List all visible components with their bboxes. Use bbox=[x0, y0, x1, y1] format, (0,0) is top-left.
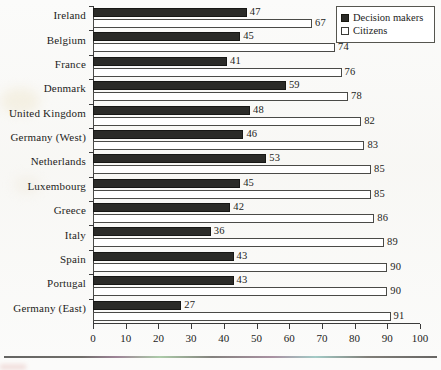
bar-value-label: 83 bbox=[367, 140, 378, 150]
bar-decision-makers bbox=[93, 203, 230, 212]
bar-decision-makers bbox=[93, 130, 243, 139]
bar-value-label: 48 bbox=[253, 105, 264, 115]
x-axis-tick bbox=[420, 324, 421, 329]
x-axis-tick bbox=[355, 324, 356, 329]
category-label: Spain bbox=[60, 254, 86, 265]
bar-group: Denmark5978 bbox=[93, 79, 420, 103]
bar-citizens bbox=[93, 190, 371, 199]
bar-value-label: 90 bbox=[390, 286, 401, 296]
category-label: Luxembourg bbox=[27, 181, 86, 192]
bar-decision-makers bbox=[93, 81, 286, 90]
legend-label: Decision makers bbox=[353, 12, 423, 23]
bar-decision-makers bbox=[93, 276, 234, 285]
x-axis-tick-label: 0 bbox=[90, 333, 96, 344]
scan-edge-smudge bbox=[0, 364, 26, 370]
filled-square-icon bbox=[341, 14, 349, 22]
page-edge-rule bbox=[4, 356, 437, 358]
category-label: Netherlands bbox=[31, 156, 86, 167]
x-axis-tick bbox=[191, 324, 192, 329]
bar-value-label: 53 bbox=[269, 153, 280, 163]
bar-value-label: 76 bbox=[345, 67, 356, 77]
y-axis-tick bbox=[89, 274, 94, 275]
category-label: Germany (West) bbox=[10, 132, 86, 143]
x-axis-tick bbox=[387, 324, 388, 329]
bar-citizens bbox=[93, 43, 335, 52]
bar-decision-makers bbox=[93, 8, 247, 17]
category-label: United Kingdom bbox=[9, 108, 86, 119]
x-axis-tick bbox=[93, 324, 94, 329]
x-axis-tick-label: 20 bbox=[153, 333, 164, 344]
category-label: France bbox=[55, 59, 86, 70]
y-axis-tick bbox=[89, 104, 94, 105]
y-axis-tick bbox=[89, 250, 94, 251]
bar-group: Netherlands5385 bbox=[93, 152, 420, 176]
bar-value-label: 82 bbox=[364, 116, 375, 126]
x-axis-tick-label: 90 bbox=[382, 333, 393, 344]
x-axis-tick-label: 70 bbox=[316, 333, 327, 344]
bar-group: Germany (West)4683 bbox=[93, 128, 420, 152]
bar-value-label: 86 bbox=[377, 213, 388, 223]
bar-group: Italy3689 bbox=[93, 225, 420, 249]
bar-decision-makers bbox=[93, 154, 266, 163]
bar-group: Luxembourg4585 bbox=[93, 177, 420, 201]
category-label: Ireland bbox=[53, 10, 86, 21]
bar-value-label: 43 bbox=[237, 275, 248, 285]
bar-citizens bbox=[93, 263, 387, 272]
bar-group: France4176 bbox=[93, 55, 420, 79]
category-label: Greece bbox=[54, 205, 86, 216]
category-label: Portugal bbox=[47, 278, 86, 289]
legend-label: Citizens bbox=[353, 25, 387, 36]
category-label: Italy bbox=[65, 230, 86, 241]
bar-citizens bbox=[93, 68, 342, 77]
plot-area: Ireland4767Belgium4574France4176Denmark5… bbox=[93, 6, 420, 323]
bar-decision-makers bbox=[93, 106, 250, 115]
y-axis-tick bbox=[89, 152, 94, 153]
x-axis-tick-label: 80 bbox=[349, 333, 360, 344]
bar-decision-makers bbox=[93, 227, 211, 236]
bar-value-label: 42 bbox=[233, 202, 244, 212]
bar-value-label: 41 bbox=[230, 56, 241, 66]
bar-value-label: 85 bbox=[374, 189, 385, 199]
chart-canvas: Ireland4767Belgium4574France4176Denmark5… bbox=[0, 0, 441, 370]
x-axis-tick-label: 10 bbox=[120, 333, 131, 344]
x-axis-tick bbox=[322, 324, 323, 329]
bar-group: Portugal4390 bbox=[93, 274, 420, 298]
empty-square-icon bbox=[341, 27, 349, 35]
y-axis-tick bbox=[89, 299, 94, 300]
bar-value-label: 59 bbox=[289, 80, 300, 90]
bar-decision-makers bbox=[93, 252, 234, 261]
x-axis-tick bbox=[224, 324, 225, 329]
category-label: Belgium bbox=[47, 35, 86, 46]
bar-value-label: 43 bbox=[237, 251, 248, 261]
x-axis-tick-label: 30 bbox=[186, 333, 197, 344]
bar-citizens bbox=[93, 19, 312, 28]
x-axis: 0102030405060708090100 bbox=[93, 323, 420, 324]
bar-value-label: 91 bbox=[394, 311, 405, 321]
y-axis-tick bbox=[89, 79, 94, 80]
bar-citizens bbox=[93, 117, 361, 126]
x-axis-tick-label: 60 bbox=[284, 333, 295, 344]
bar-group: United Kingdom4882 bbox=[93, 104, 420, 128]
bar-value-label: 27 bbox=[184, 300, 195, 310]
bar-citizens bbox=[93, 214, 374, 223]
x-axis-tick-label: 100 bbox=[412, 333, 429, 344]
bar-group: Spain4390 bbox=[93, 250, 420, 274]
bar-value-label: 46 bbox=[246, 129, 257, 139]
category-label: Germany (East) bbox=[13, 303, 86, 314]
x-axis-tick bbox=[126, 324, 127, 329]
y-axis-tick bbox=[89, 55, 94, 56]
bar-value-label: 85 bbox=[374, 164, 385, 174]
bar-value-label: 78 bbox=[351, 91, 362, 101]
x-axis-tick bbox=[289, 324, 290, 329]
x-axis-tick-label: 40 bbox=[218, 333, 229, 344]
bar-citizens bbox=[93, 312, 391, 321]
bar-value-label: 90 bbox=[390, 262, 401, 272]
y-axis-tick bbox=[89, 177, 94, 178]
bar-citizens bbox=[93, 92, 348, 101]
bar-citizens bbox=[93, 165, 371, 174]
bar-decision-makers bbox=[93, 57, 227, 66]
y-axis-tick bbox=[89, 201, 94, 202]
bar-value-label: 36 bbox=[214, 226, 225, 236]
bar-group: Greece4286 bbox=[93, 201, 420, 225]
bar-decision-makers bbox=[93, 32, 240, 41]
